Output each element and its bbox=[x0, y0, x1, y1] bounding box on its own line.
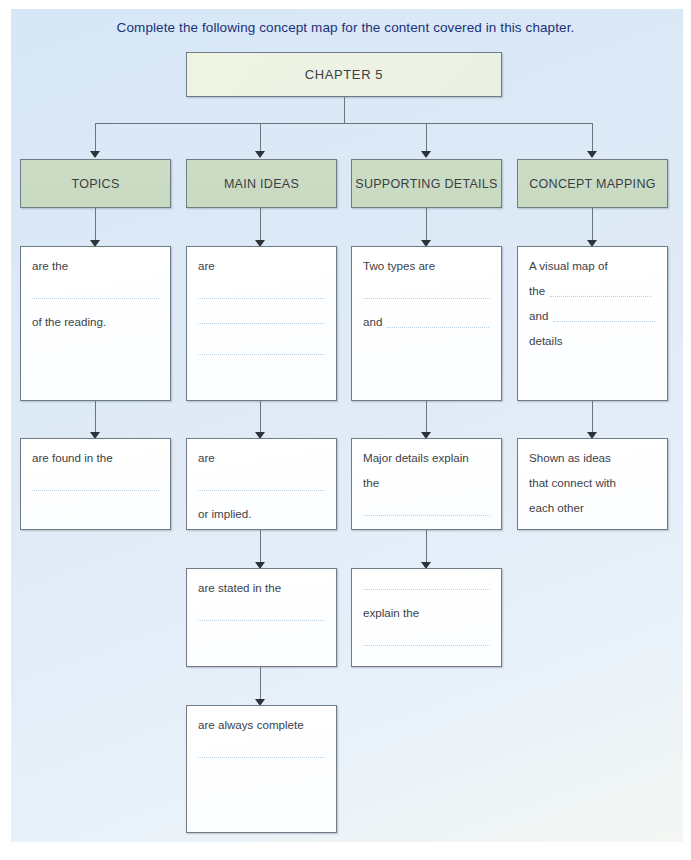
card-concept-mapping-2: Shown as ideasthat connect witheach othe… bbox=[517, 438, 668, 530]
column-connector bbox=[260, 530, 261, 562]
root-stem-connector bbox=[344, 97, 345, 123]
blank-fill-line[interactable] bbox=[363, 507, 490, 516]
card-text-with-blank: the bbox=[529, 284, 656, 298]
card-text-line: Two types are bbox=[363, 259, 490, 273]
card-text-line: are stated in the bbox=[198, 581, 325, 595]
arrow-down-icon bbox=[90, 151, 100, 158]
blank-fill-line-row bbox=[363, 581, 490, 595]
blank-fill-line-row bbox=[32, 482, 159, 496]
blank-fill-line[interactable] bbox=[363, 637, 490, 646]
card-spacer bbox=[363, 284, 490, 286]
blank-fill-line[interactable] bbox=[198, 290, 325, 299]
blank-fill-line[interactable] bbox=[198, 749, 325, 758]
bus-drop-connector-3 bbox=[426, 123, 427, 151]
card-spacer bbox=[198, 476, 325, 478]
column-connector bbox=[95, 208, 96, 240]
blank-fill-line[interactable] bbox=[387, 319, 489, 328]
concept-map-page: Complete the following concept map for t… bbox=[0, 0, 691, 860]
card-text-line: A visual map of bbox=[529, 259, 656, 273]
card-spacer bbox=[198, 340, 325, 342]
blank-fill-line[interactable] bbox=[198, 346, 325, 355]
blank-fill-line-row bbox=[363, 637, 490, 651]
column-connector bbox=[260, 667, 261, 699]
card-text-with-blank: and bbox=[529, 309, 656, 323]
card-text-line: are bbox=[198, 259, 325, 273]
card-spacer bbox=[363, 631, 490, 633]
column-connector bbox=[260, 401, 261, 432]
column-header-label: TOPICS bbox=[71, 177, 119, 191]
card-spacer bbox=[198, 606, 325, 608]
column-header-label: SUPPORTING DETAILS bbox=[355, 177, 497, 191]
bus-drop-connector-2 bbox=[260, 123, 261, 151]
card-text-with-blank: and bbox=[363, 315, 490, 329]
card-text-line: are always complete bbox=[198, 718, 325, 732]
card-text-line: the bbox=[363, 476, 490, 490]
arrow-down-icon bbox=[421, 151, 431, 158]
column-header-concept-mapping: CONCEPT MAPPING bbox=[517, 159, 668, 208]
card-main-ideas-4: are always complete bbox=[186, 705, 337, 833]
column-connector bbox=[592, 208, 593, 240]
card-spacer bbox=[32, 476, 159, 478]
column-header-main-ideas: MAIN IDEAS bbox=[186, 159, 337, 208]
card-text-line: Shown as ideas bbox=[529, 451, 656, 465]
column-connector bbox=[95, 401, 96, 432]
blank-fill-line[interactable] bbox=[32, 482, 159, 491]
blank-fill-line-row bbox=[198, 315, 325, 329]
card-text-line: or implied. bbox=[198, 507, 325, 521]
card-main-ideas-2: are or implied. bbox=[186, 438, 337, 530]
card-text-line: the bbox=[529, 284, 545, 297]
blank-fill-line[interactable] bbox=[363, 290, 490, 299]
column-connector bbox=[426, 401, 427, 432]
instruction-text: Complete the following concept map for t… bbox=[0, 20, 691, 35]
card-text-line: are found in the bbox=[32, 451, 159, 465]
blank-fill-line-row bbox=[32, 290, 159, 304]
blank-fill-line[interactable] bbox=[198, 482, 325, 491]
card-topics-2: are found in the bbox=[20, 438, 171, 530]
arrow-down-icon bbox=[587, 151, 597, 158]
chapter-root-box: CHAPTER 5 bbox=[186, 52, 502, 97]
blank-fill-line-row bbox=[198, 482, 325, 496]
bus-drop-connector-4 bbox=[592, 123, 593, 151]
column-header-supporting-details: SUPPORTING DETAILS bbox=[351, 159, 502, 208]
blank-fill-line[interactable] bbox=[198, 315, 325, 324]
bus-drop-connector-1 bbox=[95, 123, 96, 151]
column-header-topics: TOPICS bbox=[20, 159, 171, 208]
column-connector bbox=[592, 401, 593, 432]
card-main-ideas-1: are bbox=[186, 246, 337, 401]
column-header-label: MAIN IDEAS bbox=[224, 177, 299, 191]
card-text-line: explain the bbox=[363, 606, 490, 620]
blank-fill-line[interactable] bbox=[198, 612, 325, 621]
card-topics-1: are the of the reading. bbox=[20, 246, 171, 401]
card-spacer bbox=[363, 501, 490, 503]
card-supporting-details-1: Two types are and bbox=[351, 246, 502, 401]
blank-fill-line-row bbox=[198, 749, 325, 763]
card-supporting-details-2: Major details explainthe bbox=[351, 438, 502, 530]
blank-fill-line-row bbox=[198, 612, 325, 626]
card-text-line: are bbox=[198, 451, 325, 465]
chapter-root-label: CHAPTER 5 bbox=[305, 67, 383, 82]
blank-fill-line[interactable] bbox=[553, 313, 655, 322]
card-text-line: are the bbox=[32, 259, 159, 273]
page-background bbox=[11, 9, 683, 842]
blank-fill-line-row bbox=[363, 290, 490, 304]
blank-fill-line-row bbox=[198, 346, 325, 360]
card-concept-mapping-1: A visual map oftheanddetails bbox=[517, 246, 668, 401]
card-text-line: of the reading. bbox=[32, 315, 159, 329]
card-spacer bbox=[198, 284, 325, 286]
card-text-line: Major details explain bbox=[363, 451, 490, 465]
card-spacer bbox=[198, 743, 325, 745]
card-text-line: details bbox=[529, 334, 656, 348]
root-bus-connector bbox=[95, 123, 592, 124]
card-spacer bbox=[32, 284, 159, 286]
card-main-ideas-3: are stated in the bbox=[186, 568, 337, 667]
blank-fill-line[interactable] bbox=[363, 581, 490, 590]
column-connector bbox=[426, 208, 427, 240]
column-header-label: CONCEPT MAPPING bbox=[529, 177, 656, 191]
blank-fill-line[interactable] bbox=[32, 290, 159, 299]
arrow-down-icon bbox=[255, 151, 265, 158]
blank-fill-line-row bbox=[363, 507, 490, 521]
blank-fill-line[interactable] bbox=[550, 288, 652, 297]
card-text-line: that connect with bbox=[529, 476, 656, 490]
card-supporting-details-3: explain the bbox=[351, 568, 502, 667]
card-text-line: each other bbox=[529, 501, 656, 515]
